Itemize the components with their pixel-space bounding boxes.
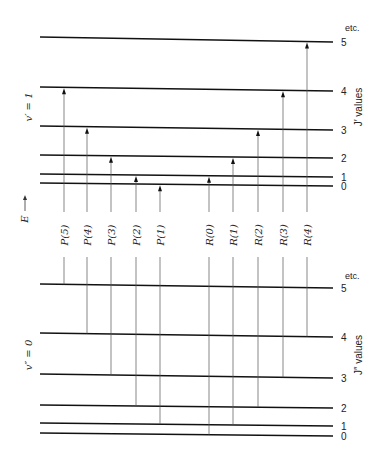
arrowhead-icon bbox=[305, 43, 309, 49]
energy-axis-label: E bbox=[19, 215, 30, 224]
transition-p4: P(4) bbox=[82, 128, 93, 334]
transition-label: R(1) bbox=[228, 224, 239, 247]
upper-level-line bbox=[40, 174, 333, 177]
lower-j-axis-label: J″ values bbox=[353, 335, 364, 375]
transition-r2: R(2) bbox=[253, 130, 264, 407]
upper-level-line bbox=[40, 87, 333, 91]
lower-level-line bbox=[40, 374, 333, 378]
transition-label: R(3) bbox=[278, 224, 289, 247]
transition-label: R(4) bbox=[302, 224, 313, 247]
upper-j-label: 4 bbox=[341, 86, 347, 97]
arrowhead-icon bbox=[158, 185, 162, 191]
energy-axis: E bbox=[19, 195, 30, 224]
energy-arrowhead-icon bbox=[23, 195, 27, 200]
arrowhead-icon bbox=[62, 88, 66, 94]
transition-label: P(1) bbox=[155, 224, 166, 246]
transition-label: P(3) bbox=[106, 224, 117, 246]
transition-p2: P(2) bbox=[131, 176, 142, 406]
lower-j-label: 5 bbox=[341, 283, 347, 294]
lower-level-line bbox=[40, 423, 333, 426]
upper-j-label: 5 bbox=[341, 37, 347, 48]
upper-j-axis-label: J′ values bbox=[353, 88, 364, 127]
upper-level-line bbox=[40, 37, 333, 42]
transition-r1: R(1) bbox=[228, 158, 239, 425]
arrowhead-icon bbox=[231, 158, 235, 164]
transition-label: R(0) bbox=[204, 224, 215, 247]
transition-label: P(4) bbox=[82, 224, 93, 246]
lower-etc-label: etc. bbox=[345, 271, 360, 281]
arrowhead-icon bbox=[134, 176, 138, 182]
lower-level-line bbox=[40, 284, 333, 288]
rotational-vibrational-transition-diagram: 012345 012345 P(5)P(4)P(3)P(2)P(1)R(0)R(… bbox=[0, 0, 382, 453]
arrowhead-icon bbox=[256, 130, 260, 136]
arrowhead-icon bbox=[207, 177, 211, 183]
lower-state-label: v″ = 0 bbox=[23, 339, 34, 370]
upper-j-label: 2 bbox=[341, 153, 347, 164]
transition-label: R(2) bbox=[253, 224, 264, 247]
upper-level-line bbox=[40, 126, 333, 130]
arrowhead-icon bbox=[109, 157, 113, 163]
lower-j-label: 1 bbox=[341, 421, 347, 432]
transition-r0: R(0) bbox=[204, 177, 215, 435]
lower-level-line bbox=[40, 405, 333, 408]
transition-label: P(5) bbox=[59, 224, 70, 246]
upper-j-label: 3 bbox=[341, 125, 347, 136]
upper-state-levels: 012345 bbox=[40, 37, 347, 192]
transition-p1: P(1) bbox=[155, 185, 166, 424]
lower-state-levels: 012345 bbox=[40, 283, 347, 442]
upper-level-line bbox=[40, 155, 333, 158]
lower-j-label: 2 bbox=[341, 403, 347, 414]
lower-j-label: 4 bbox=[341, 332, 347, 343]
arrowhead-icon bbox=[281, 91, 285, 97]
arrowhead-icon bbox=[85, 128, 89, 134]
lower-j-label: 3 bbox=[341, 373, 347, 384]
transition-p5: P(5) bbox=[59, 88, 70, 284]
transition-label: P(2) bbox=[131, 224, 142, 246]
transition-r3: R(3) bbox=[278, 91, 289, 377]
upper-state-label: v′ = 1 bbox=[23, 92, 34, 121]
transition-r4: R(4) bbox=[302, 43, 313, 337]
upper-etc-label: etc. bbox=[345, 23, 360, 33]
transition-p3: P(3) bbox=[106, 157, 117, 375]
upper-j-label: 1 bbox=[341, 172, 347, 183]
upper-level-line bbox=[40, 183, 333, 186]
lower-level-line bbox=[40, 433, 333, 436]
lower-level-line bbox=[40, 333, 333, 337]
lower-j-label: 0 bbox=[341, 431, 347, 442]
